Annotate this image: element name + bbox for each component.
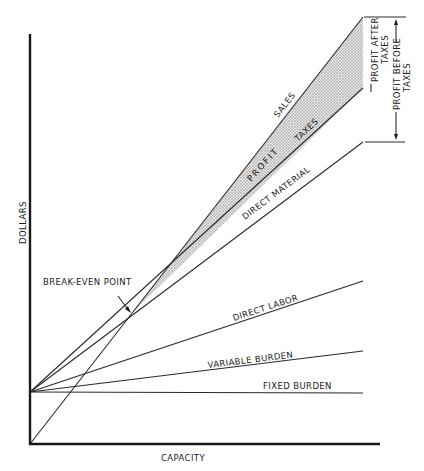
taxes-line [30, 88, 363, 392]
sales-line [30, 17, 363, 444]
y-axis-label: DOLLARS [18, 201, 28, 244]
fixed-burden-line [30, 392, 363, 393]
fixed-burden-label: FIXED BURDEN [263, 381, 332, 391]
arrowhead-up-icon [394, 19, 398, 25]
variable-burden-label: VARIABLE BURDEN [207, 350, 294, 370]
profit-after-taxes-label-2: TAXES [380, 35, 390, 65]
direct-material-line [30, 142, 363, 392]
direct-labor-line [30, 281, 363, 392]
profit-after-taxes-label-1: PROFIT AFTER [370, 17, 380, 82]
x-axis-label: CAPACITY [161, 453, 205, 463]
direct-labor-label: DIRECT LABOR [232, 292, 300, 323]
arrowhead-down-icon [394, 134, 398, 140]
break-even-label: BREAK-EVEN POINT [43, 277, 132, 287]
profit-before-taxes-label-1: PROFIT BEFORE [392, 38, 402, 110]
break-even-chart: DOLLARS CAPACITY BREAK-EVEN POINT SALES … [0, 0, 424, 471]
profit-before-taxes-label-2: TAXES [402, 63, 412, 93]
